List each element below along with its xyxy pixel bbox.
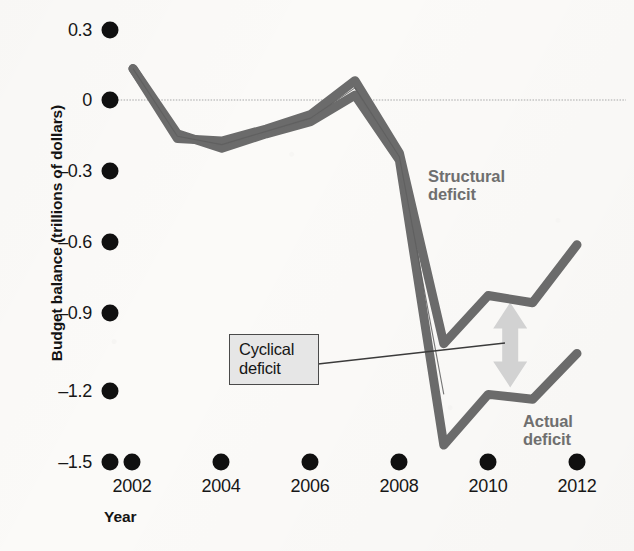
x-tick-dot	[124, 454, 141, 471]
x-tick-dot	[480, 454, 497, 471]
y-tick-dot	[102, 234, 119, 251]
y-tick-label-neg1.2: –1.2	[22, 381, 92, 402]
x-tick-label-2006: 2006	[270, 476, 350, 497]
x-axis-title: Year	[104, 508, 136, 526]
y-tick-dot	[102, 92, 119, 109]
callout-leader-line	[318, 343, 505, 364]
x-tick-label-2004: 2004	[181, 476, 261, 497]
cyclical-deficit-callout-line1: Cyclical	[239, 340, 309, 359]
actual-deficit-label: Actual deficit	[523, 412, 573, 449]
y-tick-dot	[102, 305, 119, 322]
y-tick-dot	[102, 22, 119, 39]
y-tick-label-neg0.6: –0.6	[22, 232, 92, 253]
structural-deficit-line	[133, 69, 577, 344]
plot-area	[0, 0, 634, 551]
x-tick-dot	[569, 454, 586, 471]
y-tick-dot	[102, 163, 119, 180]
y-tick-label-neg1.5: –1.5	[22, 452, 92, 473]
y-tick-label-0.3: 0.3	[30, 20, 92, 41]
chart-figure: Budget balance (trillions of dollars) 0.…	[0, 0, 634, 551]
x-tick-dot	[391, 454, 408, 471]
structural-deficit-label-line1: Structural	[428, 167, 505, 185]
structural-deficit-label: Structural deficit	[428, 167, 505, 204]
cyclical-deficit-arrow	[493, 303, 527, 388]
actual-deficit-label-line1: Actual	[523, 412, 573, 430]
cyclical-deficit-callout: Cyclical deficit	[229, 334, 319, 385]
x-tick-label-2008: 2008	[359, 476, 439, 497]
y-tick-label-neg0.3: –0.3	[22, 161, 92, 182]
x-tick-label-2002: 2002	[92, 476, 172, 497]
actual-deficit-label-line2: deficit	[523, 430, 573, 448]
x-tick-label-2010: 2010	[448, 476, 528, 497]
actual-deficit-line	[133, 69, 577, 446]
y-tick-dot	[102, 383, 119, 400]
y-tick-dot	[102, 454, 119, 471]
x-tick-dot	[213, 454, 230, 471]
y-axis-tick-dots	[102, 22, 119, 471]
y-tick-label-0: 0	[30, 90, 92, 111]
cyclical-deficit-callout-line2: deficit	[239, 359, 309, 378]
y-tick-label-neg0.9: –0.9	[22, 303, 92, 324]
structural-deficit-label-line2: deficit	[428, 185, 505, 203]
x-tick-dot	[302, 454, 319, 471]
x-axis-tick-dots	[124, 454, 586, 471]
x-tick-label-2012: 2012	[537, 476, 617, 497]
